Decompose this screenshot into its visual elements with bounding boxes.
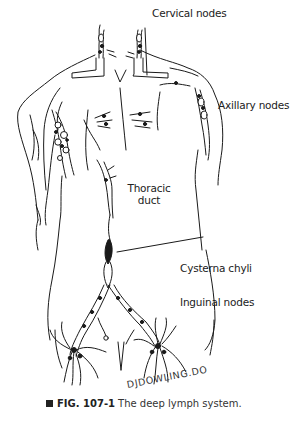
axillary-nodes-art [52,82,210,179]
figure-caption: FIG. 107-1The deep lymph system. [46,398,242,409]
figure-number: FIG. 107-1 [57,398,115,409]
label-cervical-nodes: Cervical nodes [152,7,227,19]
thoracic-duct-art [97,160,116,240]
caption-square-icon [46,400,53,407]
lymph-system-figure: Cervical nodes Axillary nodes Thoracic d… [0,0,294,425]
cervical-nodes-art [72,25,168,78]
label-cisterna-chyli: Cysterna chyli [180,262,252,274]
label-thoracic-line2: duct [124,194,174,206]
label-inguinal-nodes: Inguinal nodes [180,296,254,308]
caption-text: The deep lymph system. [118,398,242,409]
label-thoracic-duct: Thoracic duct [124,182,174,206]
label-thoracic-line1: Thoracic [124,182,174,194]
label-axillary-nodes: Axillary nodes [218,99,289,111]
body-outline [18,50,223,370]
